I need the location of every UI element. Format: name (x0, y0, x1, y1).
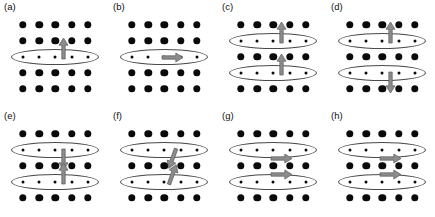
lattice-dot (379, 21, 386, 28)
lattice-dot (237, 162, 244, 169)
lattice-grid (0, 109, 108, 217)
lattice-dot (19, 69, 26, 76)
lattice-dot (161, 21, 168, 28)
lattice-dot (346, 85, 353, 92)
panel-g: (g) (218, 109, 326, 217)
lattice-dot (237, 21, 244, 28)
lattice-dot (411, 194, 418, 201)
lattice-grid (327, 109, 435, 217)
lattice-dot (253, 53, 260, 60)
lattice-dot (237, 53, 244, 60)
lattice-dot (286, 130, 293, 137)
lattice-dot (395, 21, 402, 28)
row-ellipse (11, 174, 99, 190)
lattice-dot (346, 130, 353, 137)
lattice-dot (302, 130, 309, 137)
lattice-dot (144, 130, 151, 137)
lattice-dot (411, 85, 418, 92)
lattice-dot (144, 37, 151, 44)
direction-arrow-right (380, 154, 401, 163)
lattice-dot (395, 130, 402, 137)
lattice-dot (379, 194, 386, 201)
lattice-dot (302, 194, 309, 201)
row-ellipse (120, 142, 208, 158)
lattice-dot (362, 85, 369, 92)
row-ellipse (11, 49, 99, 65)
lattice-dot (35, 21, 42, 28)
lattice-dot (286, 21, 293, 28)
lattice-dot (84, 85, 91, 92)
lattice-dot (193, 194, 200, 201)
lattice-dot (19, 194, 26, 201)
lattice-dot (177, 69, 184, 76)
lattice-dot (237, 85, 244, 92)
lattice-dot (302, 162, 309, 169)
lattice-dot (128, 21, 135, 28)
lattice-dot (144, 85, 151, 92)
lattice-dot (411, 130, 418, 137)
lattice-dot (68, 130, 75, 137)
direction-arrow-right (162, 53, 183, 62)
lattice-dot (346, 162, 353, 169)
lattice-dot (161, 37, 168, 44)
row-ellipse (229, 33, 317, 49)
figure-canvas: (a)(b)(c)(d)(e)(f)(g)(h) (0, 0, 435, 217)
lattice-dot (161, 85, 168, 92)
lattice-dot (19, 21, 26, 28)
lattice-dot (193, 37, 200, 44)
lattice-dot (68, 21, 75, 28)
lattice-dot (177, 37, 184, 44)
lattice-dot (302, 21, 309, 28)
lattice-grid (327, 0, 435, 108)
lattice-dot (253, 130, 260, 137)
lattice-dot (286, 53, 293, 60)
lattice-dot (362, 21, 369, 28)
lattice-dot (193, 85, 200, 92)
lattice-dot (52, 21, 59, 28)
lattice-dot (161, 194, 168, 201)
lattice-dot (128, 69, 135, 76)
direction-arrow-up (277, 54, 286, 75)
panel-h: (h) (327, 109, 435, 217)
lattice-dot (52, 85, 59, 92)
lattice-dot (128, 194, 135, 201)
lattice-dot (144, 194, 151, 201)
lattice-dot (253, 21, 260, 28)
lattice-dot (144, 21, 151, 28)
lattice-dot (302, 53, 309, 60)
lattice-dot (379, 85, 386, 92)
lattice-dot (161, 69, 168, 76)
lattice-dot (237, 194, 244, 201)
lattice-dot (346, 21, 353, 28)
lattice-dot (193, 130, 200, 137)
lattice-dot (52, 194, 59, 201)
lattice-dot (395, 85, 402, 92)
lattice-dot (379, 162, 386, 169)
row-ellipse (11, 142, 99, 158)
lattice-dot (35, 85, 42, 92)
panel-d: (d) (327, 0, 435, 108)
lattice-dot (286, 85, 293, 92)
lattice-dot (286, 194, 293, 201)
lattice-dot (379, 53, 386, 60)
direction-arrow-up (386, 22, 395, 43)
lattice-dot (144, 69, 151, 76)
lattice-dot (19, 85, 26, 92)
lattice-dot (395, 162, 402, 169)
direction-arrow-right (380, 170, 401, 179)
lattice-dot (411, 162, 418, 169)
lattice-dot (177, 85, 184, 92)
direction-arrow-up (277, 22, 286, 43)
lattice-dot (35, 130, 42, 137)
panel-c: (c) (218, 0, 326, 108)
lattice-dot (270, 194, 277, 201)
lattice-dot (362, 194, 369, 201)
lattice-dot (68, 69, 75, 76)
lattice-dot (144, 162, 151, 169)
lattice-dot (68, 194, 75, 201)
direction-arrow-down (386, 72, 395, 93)
lattice-dot (346, 53, 353, 60)
lattice-dot (253, 162, 260, 169)
lattice-dot (84, 69, 91, 76)
lattice-dot (84, 130, 91, 137)
